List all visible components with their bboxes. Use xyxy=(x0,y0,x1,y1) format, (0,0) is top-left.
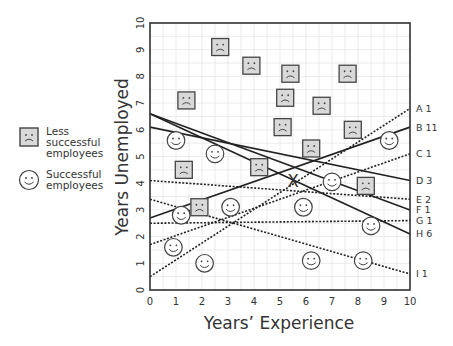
line-label-i: I 1 xyxy=(416,268,428,279)
x-tick-label: 10 xyxy=(404,296,417,307)
sad-face-marker xyxy=(303,140,320,157)
x-tick-label: 4 xyxy=(251,296,257,307)
line-label-g: G 1 xyxy=(416,215,432,226)
y-tick-label: 1 xyxy=(135,260,146,266)
legend-label-line: employees xyxy=(46,148,103,159)
sad-face-marker xyxy=(191,199,208,216)
sad-face-marker xyxy=(339,65,356,82)
sad-face-marker xyxy=(313,97,330,114)
data-markers xyxy=(165,39,398,273)
happy-face-marker xyxy=(302,252,320,270)
sad-face-marker xyxy=(277,89,294,106)
y-tick-label: 6 xyxy=(135,127,146,133)
line-label-d: D 3 xyxy=(416,175,432,186)
x-axis-ticks: 012345678910 xyxy=(147,296,417,307)
sad-face-marker xyxy=(178,92,195,109)
y-tick-label: 5 xyxy=(135,153,146,159)
line-label-a: A 1 xyxy=(416,103,432,114)
legend-label-less-successful: Less successful employees xyxy=(46,126,103,159)
happy-face-marker xyxy=(295,198,313,216)
sad-face-marker xyxy=(357,177,374,194)
legend-item-successful: Successful employees xyxy=(18,169,128,191)
line-label-e: E 2 xyxy=(416,194,431,205)
grid xyxy=(150,23,410,290)
y-tick-label: 7 xyxy=(135,100,146,106)
x-tick-label: 3 xyxy=(225,296,231,307)
legend-label-line: employees xyxy=(46,180,103,191)
y-tick-label: 10 xyxy=(135,17,146,30)
happy-face-marker xyxy=(323,173,341,191)
x-tick-label: 7 xyxy=(329,296,335,307)
line-label-b: B 11 xyxy=(416,122,438,133)
happy-face-marker xyxy=(206,145,224,163)
happy-face-marker xyxy=(165,238,183,256)
happy-face-marker xyxy=(222,198,240,216)
line-label-h: H 6 xyxy=(416,228,432,239)
x-tick-label: 2 xyxy=(199,296,205,307)
happy-face-marker xyxy=(172,206,190,224)
x-axis-title: Years’ Experience xyxy=(203,313,354,333)
y-tick-label: 2 xyxy=(135,233,146,239)
happy-face-marker xyxy=(196,254,214,272)
y-tick-label: 4 xyxy=(135,180,146,186)
sad-face-marker xyxy=(251,159,268,176)
y-tick-label: 8 xyxy=(135,73,146,79)
happy-face-marker xyxy=(354,252,372,270)
sad-face-marker xyxy=(344,121,361,138)
happy-face-marker xyxy=(380,132,398,150)
sad-face-marker xyxy=(282,65,299,82)
sad-face-marker xyxy=(243,57,260,74)
x-tick-label: 0 xyxy=(147,296,153,307)
line-labels: A 1B 11C 1D 3E 2F 1G 1H 6I 1 xyxy=(416,103,438,280)
x-tick-label: 6 xyxy=(303,296,309,307)
x-tick-label: 9 xyxy=(381,296,387,307)
sad-face-marker xyxy=(175,161,192,178)
y-tick-label: 9 xyxy=(135,47,146,53)
legend: Less successful employees Successful emp… xyxy=(18,126,128,201)
line-label-f: F 1 xyxy=(416,204,431,215)
y-tick-label: 0 xyxy=(135,287,146,293)
sad-face-square-icon xyxy=(18,126,40,148)
line-label-c: C 1 xyxy=(416,148,432,159)
marked-point-x: X xyxy=(287,171,299,191)
happy-face-marker xyxy=(362,217,380,235)
x-tick-label: 8 xyxy=(355,296,361,307)
x-tick-label: 5 xyxy=(277,296,283,307)
y-tick-label: 3 xyxy=(135,207,146,213)
legend-item-less-successful: Less successful employees xyxy=(18,126,128,159)
legend-label-successful: Successful employees xyxy=(46,169,103,191)
sad-face-marker xyxy=(274,119,291,136)
happy-face-circle-icon xyxy=(18,169,40,191)
happy-face-marker xyxy=(167,132,185,150)
y-axis-ticks: 012345678910 xyxy=(135,17,146,294)
sad-face-marker xyxy=(212,39,229,56)
x-tick-label: 1 xyxy=(173,296,179,307)
